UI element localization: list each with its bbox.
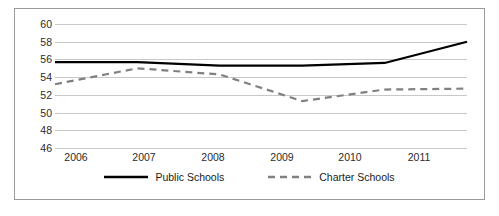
y-tick-label: 60: [22, 19, 52, 30]
x-tick-label: 2008: [183, 152, 243, 163]
series-line-charter-schools: [55, 68, 467, 101]
legend-swatch-solid-line-icon: [104, 172, 148, 182]
line-chart: 60 58 56 54 52 50 48 46 2006 2007 2008 2…: [0, 0, 499, 216]
legend-swatch-dashed-line-icon: [268, 172, 312, 182]
y-tick-label: 50: [22, 108, 52, 119]
series-line-public-schools: [55, 42, 467, 66]
plot-area: [55, 24, 467, 148]
x-tick-label: 2009: [252, 152, 312, 163]
legend-label: Charter Schools: [319, 172, 394, 183]
x-tick-label: 2007: [114, 152, 174, 163]
x-tick-label: 2010: [320, 152, 380, 163]
y-tick-label: 52: [22, 90, 52, 101]
legend-entry-public-schools: Public Schools: [104, 172, 224, 183]
series-plot: [55, 24, 467, 148]
legend-label: Public Schools: [155, 172, 224, 183]
chart-legend: Public Schools Charter Schools: [0, 172, 499, 183]
y-tick-label: 48: [22, 125, 52, 136]
y-tick-label: 56: [22, 54, 52, 65]
x-tick-label: 2006: [46, 152, 106, 163]
x-tick-label: 2011: [389, 152, 449, 163]
gridline: [55, 148, 467, 149]
legend-entry-charter-schools: Charter Schools: [268, 172, 394, 183]
y-tick-label: 58: [22, 37, 52, 48]
y-tick-label: 54: [22, 72, 52, 83]
